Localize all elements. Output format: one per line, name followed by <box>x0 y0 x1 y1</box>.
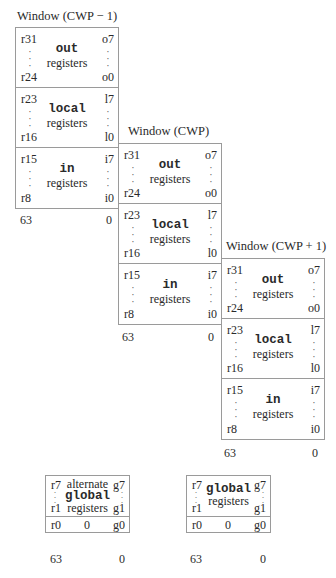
bit-low-label: 0 <box>260 552 266 567</box>
reg-label: r24 <box>21 71 37 83</box>
out-registers: r31 o7 ··· ··· outregisters r24 o0 <box>119 144 221 204</box>
register-kind: local <box>16 102 118 116</box>
local-registers: r23 l7 ··· ··· localregisters r16 l0 <box>16 88 118 148</box>
register-kind: in <box>222 393 324 407</box>
reg-label: o0 <box>102 71 114 83</box>
reg-label: l0 <box>311 362 320 374</box>
window-cwp-minus-1: r31 o7 ··· ··· outregisters r24 o0 r23 l… <box>15 27 119 209</box>
register-caption: registers <box>119 232 221 246</box>
register-kind: out <box>16 42 118 56</box>
reg-label: g1 <box>113 502 125 514</box>
window-title-cwp-minus-1: Window (CWP − 1) <box>17 9 117 24</box>
reg-label: r8 <box>21 192 31 204</box>
register-kind: out <box>119 158 221 172</box>
reg-label: r1 <box>192 502 202 514</box>
register-caption: registers <box>16 56 118 70</box>
reg-label: r16 <box>227 362 243 374</box>
in-registers: r15 i7 ··· ··· inregisters r8 i0 <box>119 264 221 324</box>
reg-label: i0 <box>105 192 114 204</box>
reg-label: i0 <box>311 423 320 435</box>
window-title-cwp-plus-1: Window (CWP + 1) <box>226 239 326 254</box>
reg-label: l0 <box>208 247 217 259</box>
zero-value: 0 <box>84 518 90 533</box>
alternate-global-registers: r7 g7 ··· ··· alternate global registers… <box>45 475 130 533</box>
reg-label: r24 <box>227 302 243 314</box>
bit-high-label: 63 <box>50 552 62 567</box>
reg-label: r0 <box>51 518 61 533</box>
register-caption: registers <box>16 176 118 190</box>
reg-label: g0 <box>113 518 125 533</box>
register-kind: local <box>222 333 324 347</box>
reg-label: g1 <box>254 502 266 514</box>
register-caption: registers <box>119 292 221 306</box>
in-registers: r15 i7 ··· ··· inregisters r8 i0 <box>222 379 324 439</box>
bit-low-label: 0 <box>312 446 318 461</box>
bit-high-label: 63 <box>190 552 202 567</box>
bit-low-label: 0 <box>208 330 214 345</box>
window-cwp-plus-1: r31 o7 ··· ··· outregisters r24 o0 r23 l… <box>221 258 325 440</box>
register-kind: in <box>16 162 118 176</box>
register-kind: out <box>222 273 324 287</box>
register-caption: registers <box>119 172 221 186</box>
reg-label: i0 <box>208 308 217 320</box>
out-registers: r31 o7 ··· ··· outregisters r24 o0 <box>222 259 324 319</box>
register-kind: local <box>119 218 221 232</box>
register-caption: registers <box>16 116 118 130</box>
reg-label: r24 <box>124 187 140 199</box>
bit-high-label: 63 <box>224 446 236 461</box>
reg-label: r8 <box>124 308 134 320</box>
reg-label: o0 <box>308 302 320 314</box>
bit-low-label: 0 <box>106 213 112 228</box>
reg-label: o0 <box>205 187 217 199</box>
reg-label: r1 <box>51 502 61 514</box>
window-title-cwp: Window (CWP) <box>128 124 209 139</box>
out-registers: r31 o7 ··· ··· outregisters r24 o0 <box>16 28 118 88</box>
reg-label: r16 <box>124 247 140 259</box>
reg-label: r8 <box>227 423 237 435</box>
global-registers: r7 g7 ··· ··· global registers r1 g1 r0 … <box>186 475 271 533</box>
local-registers: r23 l7 ··· ··· localregisters r16 l0 <box>119 204 221 264</box>
bit-high-label: 63 <box>20 213 32 228</box>
register-caption: registers <box>222 287 324 301</box>
window-cwp: r31 o7 ··· ··· outregisters r24 o0 r23 l… <box>118 143 222 325</box>
reg-label: r16 <box>21 131 37 143</box>
local-registers: r23 l7 ··· ··· localregisters r16 l0 <box>222 319 324 379</box>
register-caption: registers <box>222 407 324 421</box>
reg-label: g0 <box>254 518 266 533</box>
bit-low-label: 0 <box>119 552 125 567</box>
reg-label: l0 <box>105 131 114 143</box>
bit-high-label: 63 <box>122 330 134 345</box>
register-caption: registers <box>222 347 324 361</box>
register-kind: in <box>119 278 221 292</box>
zero-value: 0 <box>225 518 231 533</box>
reg-label: r0 <box>192 518 202 533</box>
in-registers: r15 i7 ··· ··· inregisters r8 i0 <box>16 148 118 208</box>
